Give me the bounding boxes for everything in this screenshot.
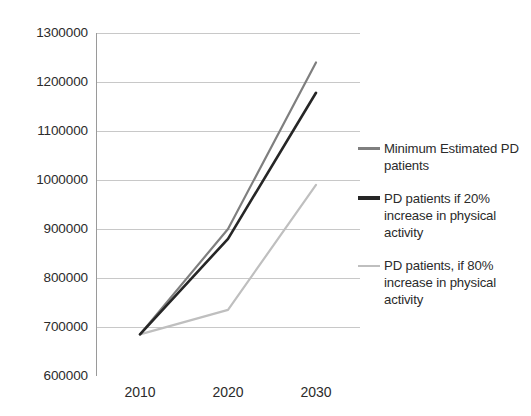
legend-item-label: PD patients, if 80% increase in physical… bbox=[384, 257, 530, 308]
legend-swatch-icon bbox=[358, 265, 380, 267]
y-axis-tick-label: 600000 bbox=[4, 369, 88, 383]
legend-swatch-icon bbox=[358, 147, 380, 150]
y-axis-tick-label: 800000 bbox=[4, 271, 88, 285]
plot-area bbox=[96, 33, 360, 376]
legend-item[interactable]: PD patients, if 80% increase in physical… bbox=[358, 257, 530, 308]
legend-item[interactable]: Minimum Estimated PD patients bbox=[358, 140, 530, 174]
line-chart: 1300000120000011000001000000900000800000… bbox=[0, 0, 531, 416]
legend-item[interactable]: PD patients if 20% increase in physical … bbox=[358, 190, 530, 241]
x-axis-tick-label: 2030 bbox=[281, 385, 351, 399]
y-axis-tick-label: 900000 bbox=[4, 222, 88, 236]
data-series-line bbox=[140, 185, 316, 334]
data-series-line bbox=[140, 93, 316, 335]
legend-item-label: Minimum Estimated PD patients bbox=[384, 140, 530, 174]
data-series-line bbox=[140, 62, 316, 334]
y-axis-tick-label: 1300000 bbox=[4, 26, 88, 40]
x-axis-tick-labels: 201020202030 bbox=[96, 385, 360, 409]
y-axis-tick-label: 1200000 bbox=[4, 75, 88, 89]
plot-svg bbox=[96, 33, 360, 376]
y-axis-tick-label: 1000000 bbox=[4, 173, 88, 187]
y-axis-tick-label: 700000 bbox=[4, 320, 88, 334]
legend-item-label: PD patients if 20% increase in physical … bbox=[384, 190, 530, 241]
chart-legend: Minimum Estimated PD patientsPD patients… bbox=[358, 140, 530, 324]
x-axis-tick-label: 2010 bbox=[105, 385, 175, 399]
y-axis-tick-labels: 1300000120000011000001000000900000800000… bbox=[0, 0, 88, 416]
x-axis-tick-label: 2020 bbox=[193, 385, 263, 399]
legend-swatch-icon bbox=[358, 196, 380, 200]
y-axis-tick-label: 1100000 bbox=[4, 124, 88, 138]
